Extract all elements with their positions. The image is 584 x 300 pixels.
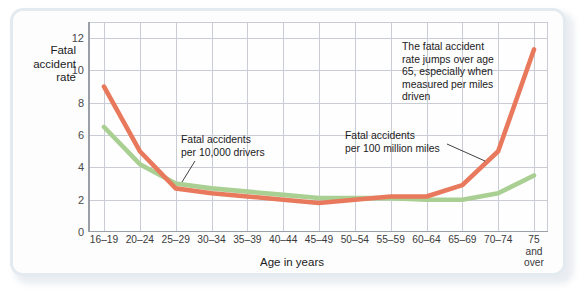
gridline-x-8 [391, 22, 392, 232]
gridline-x-2 [176, 22, 177, 232]
plot-right-border [547, 22, 548, 232]
x-axis-title: Age in years [0, 256, 584, 268]
gridline-x-4 [247, 22, 248, 232]
y-tick-label-10: 10 [72, 64, 84, 76]
x-tick-label-10: 65–69 [448, 234, 476, 246]
gridline-y-2 [88, 200, 548, 201]
x-tick-label-5: 40–44 [269, 234, 297, 246]
chart-screenshot: Fatal accident rate 024681012 16–1920–24… [0, 0, 584, 300]
x-tick-label-7: 50–54 [341, 234, 369, 246]
gridline-x-7 [355, 22, 356, 232]
gridline-x-5 [283, 22, 284, 232]
y-tick-label-0: 0 [78, 226, 84, 238]
gridline-x-1 [140, 22, 141, 232]
y-axis-line [88, 22, 90, 232]
gridline-y-6 [88, 135, 548, 136]
x-tick-label-11: 70–74 [484, 234, 512, 246]
gridline-y-12 [88, 38, 548, 39]
y-tick-label-6: 6 [78, 129, 84, 141]
annotation-per-100-million-miles: Fatal accidents per 100 million miles [345, 130, 440, 155]
y-tick-label-2: 2 [78, 194, 84, 206]
y-tick-label-8: 8 [78, 97, 84, 109]
y-tick-label-12: 12 [72, 32, 84, 44]
annotation-per-10000-drivers: Fatal accidents per 10,000 drivers [181, 134, 265, 159]
plot-top-border [88, 22, 548, 23]
gridline-x-11 [498, 22, 499, 232]
x-tick-label-9: 60–64 [412, 234, 440, 246]
x-tick-label-6: 45–49 [305, 234, 333, 246]
x-tick-label-2: 25–29 [161, 234, 189, 246]
y-axis-ticks: 024681012 [60, 22, 84, 232]
x-tick-label-1: 20–24 [126, 234, 154, 246]
x-tick-label-4: 35–39 [233, 234, 261, 246]
gridline-x-3 [212, 22, 213, 232]
x-tick-label-0: 16–19 [90, 234, 118, 246]
annotation-rate-jumps-over-65: The fatal accident rate jumps over age 6… [402, 41, 494, 104]
gridline-x-6 [319, 22, 320, 232]
gridline-x-0 [104, 22, 105, 232]
x-tick-label-8: 55–59 [376, 234, 404, 246]
x-tick-label-3: 30–34 [197, 234, 225, 246]
gridline-x-12 [534, 22, 535, 232]
gridline-y-4 [88, 167, 548, 168]
y-tick-label-4: 4 [78, 161, 84, 173]
x-axis-line [88, 231, 548, 233]
